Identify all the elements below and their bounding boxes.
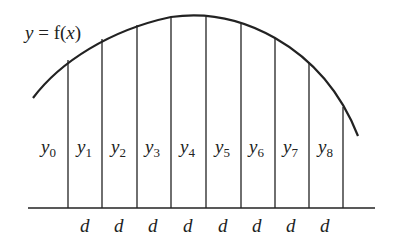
label-y8: y8 [316,136,333,160]
label-y4: y4 [178,136,195,160]
width-label-7: d [286,215,296,236]
width-label-5: d [218,215,228,236]
ordinate-lines [68,17,343,208]
strip-width-labels: d d d d d d d d [80,215,330,236]
label-y5: y5 [213,136,230,160]
label-y6: y6 [247,136,264,160]
label-y0: y0 [39,136,56,160]
label-y7: y7 [281,136,298,160]
width-label-3: d [148,215,158,236]
label-y2: y2 [109,136,126,160]
label-y1: y1 [75,136,92,160]
function-label: y = f(x) [23,22,81,44]
width-label-2: d [114,215,124,236]
width-label-6: d [252,215,262,236]
label-y3: y3 [143,136,160,160]
width-label-4: d [183,215,193,236]
trapezium-rule-diagram: y = f(x) y0 y1 y2 y3 y4 y5 y6 y7 y8 d d … [0,0,393,248]
width-label-8: d [320,215,330,236]
ordinate-labels: y0 y1 y2 y3 y4 y5 y6 y7 y8 [39,136,333,160]
diagram-canvas: y = f(x) y0 y1 y2 y3 y4 y5 y6 y7 y8 d d … [0,0,393,248]
width-label-1: d [80,215,90,236]
